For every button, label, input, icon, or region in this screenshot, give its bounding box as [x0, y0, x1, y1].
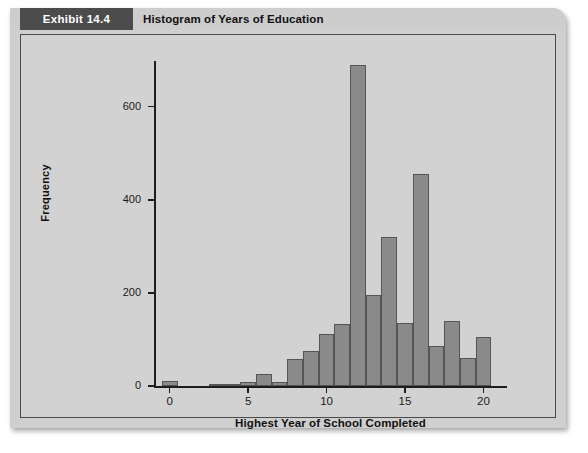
y-axis-line	[154, 61, 156, 387]
x-tick	[326, 387, 328, 393]
histogram-bar	[413, 174, 429, 386]
histogram-bar	[240, 382, 256, 386]
histogram-bar	[272, 382, 288, 386]
y-tick	[148, 199, 154, 201]
y-tick-label: 600	[95, 100, 141, 112]
plot-area: Frequency Highest Year of School Complet…	[21, 35, 557, 419]
x-tick-label: 0	[150, 395, 190, 407]
y-tick-label: 400	[95, 193, 141, 205]
histogram-bar	[225, 384, 241, 386]
histogram-bar	[397, 323, 413, 386]
histogram-bar	[350, 65, 366, 386]
x-tick-label: 20	[463, 395, 503, 407]
chart-panel: Frequency Highest Year of School Complet…	[20, 34, 556, 418]
exhibit-number-badge: Exhibit 14.4	[20, 8, 133, 30]
histogram-bar	[256, 374, 272, 386]
x-tick	[169, 387, 171, 393]
x-tick-label: 10	[307, 395, 347, 407]
y-tick	[148, 385, 154, 387]
histogram-bar	[429, 346, 445, 386]
histogram-bar	[209, 384, 225, 386]
exhibit-header: Exhibit 14.4 Histogram of Years of Educa…	[10, 8, 566, 30]
histogram-bar	[303, 351, 319, 386]
x-tick-label: 5	[228, 395, 268, 407]
histogram-bar	[476, 337, 492, 386]
histogram-bar	[162, 381, 178, 386]
y-tick-label: 200	[95, 286, 141, 298]
x-tick	[483, 387, 485, 393]
histogram-bar	[444, 321, 460, 386]
histogram-bar	[381, 237, 397, 386]
x-axis-title: Highest Year of School Completed	[154, 417, 507, 429]
x-tick	[247, 387, 249, 393]
x-axis-line	[154, 386, 507, 388]
histogram-bar	[334, 324, 350, 386]
x-tick	[404, 387, 406, 393]
y-tick	[148, 106, 154, 108]
exhibit-title: Histogram of Years of Education	[143, 8, 324, 30]
exhibit-card: Exhibit 14.4 Histogram of Years of Educa…	[10, 8, 566, 428]
histogram-bar	[366, 295, 382, 386]
y-tick	[148, 292, 154, 294]
y-tick-label: 0	[95, 379, 141, 391]
y-axis-title: Frequency	[39, 123, 51, 263]
x-tick-label: 15	[385, 395, 425, 407]
histogram-bar	[287, 359, 303, 386]
histogram-bar	[319, 334, 335, 386]
histogram-bar	[460, 358, 476, 386]
